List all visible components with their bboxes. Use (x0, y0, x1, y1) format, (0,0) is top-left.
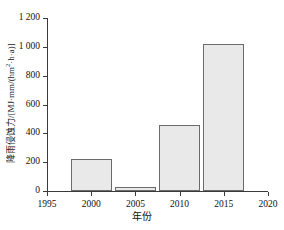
x-tick-mark (224, 192, 225, 196)
x-tick-mark (268, 192, 269, 196)
y-tick-label: 1 200 (19, 11, 40, 24)
y-tick-mark: 1 200 (43, 18, 47, 19)
x-tick-mark (47, 192, 48, 196)
plot-area: 02004006008001 0001 200 1995200020052010… (47, 18, 268, 192)
y-tick-label: 200 (26, 155, 40, 168)
y-tick-label: 600 (26, 98, 40, 111)
y-tick-label: 400 (26, 126, 40, 139)
bar-2015 (203, 44, 244, 191)
x-axis-title: 年份 (0, 208, 284, 223)
y-tick-label: 1 000 (19, 40, 40, 53)
rainfall-erosivity-bar-chart: 降雨侵蚀力/[MJ·mm/(hm2·h·a)] 02004006008001 0… (0, 0, 284, 230)
y-tick-mark: 800 (43, 76, 47, 77)
y-axis-title: 降雨侵蚀力/[MJ·mm/(hm2·h·a)] (1, 3, 15, 203)
y-tick-mark: 400 (43, 133, 47, 134)
y-axis-title-suffix: ·h·a)] (6, 43, 16, 63)
x-tick-mark (180, 192, 181, 196)
y-axis-title-superscript: 2 (4, 64, 11, 67)
y-axis-title-prefix: 降雨侵蚀力/[MJ·mm/(hm (6, 67, 16, 163)
y-tick-mark: 1 000 (43, 47, 47, 48)
bar-2010 (159, 125, 200, 191)
y-tick-label: 800 (26, 69, 40, 82)
y-tick-mark: 200 (43, 162, 47, 163)
x-axis-line (47, 191, 268, 192)
y-axis-line (47, 18, 48, 192)
bar-2000 (71, 159, 112, 191)
x-tick-mark (135, 192, 136, 196)
bar-2005 (115, 187, 156, 191)
y-tick-label: 0 (35, 184, 40, 197)
x-tick-mark (91, 192, 92, 196)
y-tick-mark: 600 (43, 105, 47, 106)
